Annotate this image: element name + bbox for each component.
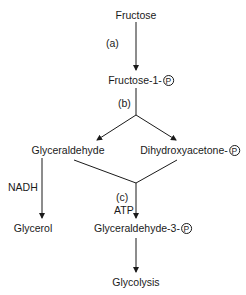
node-glyceraldehyde: Glyceraldehyde bbox=[32, 144, 105, 156]
step-label-b: (b) bbox=[118, 97, 131, 109]
node-glycerol: Glycerol bbox=[14, 222, 53, 234]
phosphate-circle-icon: P bbox=[163, 75, 174, 86]
node-dihydroxyacetone-phosphate-text: Dihydroxyacetone- bbox=[140, 144, 228, 156]
phosphate-circle-icon: P bbox=[181, 223, 192, 234]
line-dhap-converge bbox=[136, 160, 177, 183]
node-glycolysis: Glycolysis bbox=[112, 276, 159, 288]
node-fructose-1-phosphate-text: Fructose-1- bbox=[108, 74, 162, 86]
arrow-to-glyceraldehyde bbox=[97, 115, 136, 140]
node-glyceraldehyde-3-phosphate: Glyceraldehyde-3-P bbox=[94, 222, 192, 235]
node-fructose-1-phosphate: Fructose-1-P bbox=[108, 74, 174, 87]
cofactor-nadh: NADH bbox=[8, 181, 38, 193]
cofactor-atp: ATP bbox=[114, 204, 134, 216]
node-glyceraldehyde-3-phosphate-text: Glyceraldehyde-3- bbox=[94, 222, 180, 234]
step-label-a: (a) bbox=[106, 37, 119, 49]
step-label-c: (c) bbox=[116, 191, 128, 203]
arrow-to-dihydroxyacetone-p bbox=[136, 115, 176, 140]
line-glyceraldehyde-converge bbox=[74, 160, 136, 183]
node-fructose: Fructose bbox=[116, 9, 157, 21]
phosphate-circle-icon: P bbox=[229, 145, 240, 156]
node-dihydroxyacetone-phosphate: Dihydroxyacetone-P bbox=[140, 144, 240, 157]
